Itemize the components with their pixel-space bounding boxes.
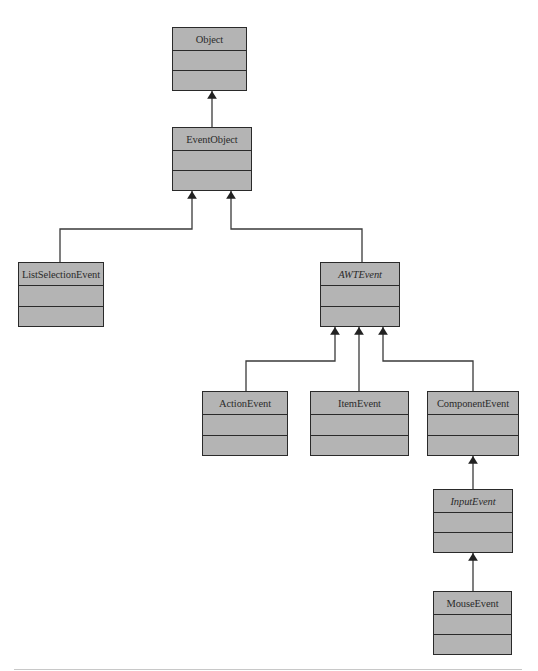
- class-name: ComponentEvent: [428, 392, 518, 415]
- class-box-actionevent: ActionEvent: [202, 391, 288, 456]
- class-box-object: Object: [172, 27, 247, 91]
- class-name: ListSelectionEvent: [19, 263, 103, 286]
- attributes-section: [428, 415, 518, 436]
- methods-section: [434, 635, 511, 654]
- class-name: InputEvent: [434, 490, 512, 513]
- methods-section: [203, 436, 287, 456]
- class-box-eventobject: EventObject: [172, 127, 252, 191]
- class-box-listselectionevent: ListSelectionEvent: [18, 262, 104, 327]
- class-box-mouseevent: MouseEvent: [433, 591, 512, 655]
- class-diagram: Object EventObject ListSelectionEvent AW…: [0, 0, 538, 671]
- class-name: MouseEvent: [434, 592, 511, 615]
- inheritance-links: [0, 0, 538, 671]
- class-box-awtevent: AWTEvent: [320, 262, 400, 327]
- inheritance-arrow-actionevent-to-awtevent: [246, 327, 335, 391]
- methods-section: [428, 436, 518, 456]
- methods-section: [173, 71, 246, 90]
- class-name: ActionEvent: [203, 392, 287, 415]
- methods-section: [311, 436, 408, 456]
- methods-section: [19, 307, 103, 327]
- class-name: ItemEvent: [311, 392, 408, 415]
- class-name: AWTEvent: [321, 263, 399, 286]
- methods-section: [434, 533, 512, 552]
- inheritance-arrow-componentevent-to-awtevent: [383, 327, 473, 391]
- attributes-section: [311, 415, 408, 436]
- class-name: EventObject: [173, 128, 251, 151]
- attributes-section: [19, 286, 103, 307]
- attributes-section: [173, 51, 246, 71]
- attributes-section: [203, 415, 287, 436]
- class-name: Object: [173, 28, 246, 51]
- attributes-section: [321, 286, 399, 307]
- page-bottom-rule: [14, 669, 522, 670]
- attributes-section: [173, 151, 251, 171]
- methods-section: [321, 307, 399, 327]
- inheritance-arrow-listselectionevent-to-eventobject: [60, 191, 192, 262]
- inheritance-arrow-awtevent-to-eventobject: [231, 191, 362, 262]
- class-box-componentevent: ComponentEvent: [427, 391, 519, 456]
- methods-section: [173, 171, 251, 190]
- class-box-inputevent: InputEvent: [433, 489, 513, 553]
- class-box-itemevent: ItemEvent: [310, 391, 409, 456]
- attributes-section: [434, 615, 511, 635]
- attributes-section: [434, 513, 512, 533]
